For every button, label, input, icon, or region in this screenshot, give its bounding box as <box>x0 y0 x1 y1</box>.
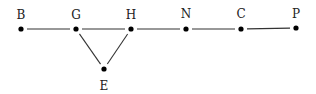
graph-diagram: BGHNCPE <box>0 0 316 94</box>
node-p <box>293 25 298 30</box>
node-e <box>101 66 106 71</box>
node-h <box>128 26 133 31</box>
node-label-g: G <box>71 8 81 22</box>
node-g <box>73 26 78 31</box>
node-label-e: E <box>100 79 109 93</box>
node-n <box>183 26 188 31</box>
node-b <box>18 26 23 31</box>
labels-group: BGHNCPE <box>17 7 300 93</box>
edge-h-e <box>107 34 127 64</box>
nodes-group <box>18 25 298 71</box>
node-label-n: N <box>181 7 192 21</box>
node-label-c: C <box>236 7 245 21</box>
node-label-h: H <box>126 8 136 22</box>
node-label-p: P <box>292 7 300 21</box>
node-c <box>238 26 243 31</box>
edges-group <box>27 28 290 64</box>
node-label-b: B <box>17 8 26 22</box>
edge-c-p <box>247 28 290 29</box>
edge-g-e <box>79 34 100 64</box>
